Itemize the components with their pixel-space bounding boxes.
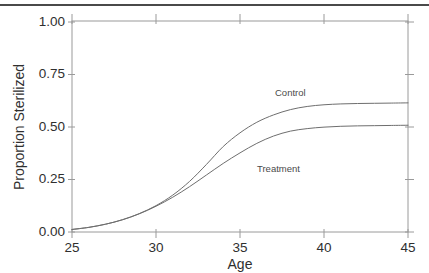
x-tick-label: 45 — [400, 240, 415, 255]
x-tick-label: 40 — [316, 240, 331, 255]
x-tick-label: 35 — [232, 240, 247, 255]
x-tick-label: 25 — [64, 240, 79, 255]
y-tick-label: 0.75 — [39, 66, 65, 81]
y-tick-label: 0.25 — [39, 171, 65, 186]
series-annotation-treatment: Treatment — [257, 163, 300, 174]
x-tick-marks-top — [72, 14, 408, 24]
y-tick-marks-right — [405, 22, 414, 232]
y-axis-title: Proportion Sterilized — [11, 64, 27, 190]
figure-container: Proportion Sterilized 0.00 0.25 0.50 0.7… — [0, 0, 429, 273]
y-tick-labels: 0.00 0.25 0.50 0.75 1.00 — [39, 14, 65, 239]
series-line-treatment — [72, 125, 408, 229]
y-tick-label: 1.00 — [39, 14, 65, 29]
x-tick-marks — [72, 229, 408, 238]
series-annotation-control: Control — [275, 87, 306, 98]
x-tick-label: 30 — [148, 240, 163, 255]
x-axis-title: Age — [228, 256, 253, 272]
y-tick-label: 0.00 — [39, 224, 65, 239]
chart-canvas: Proportion Sterilized 0.00 0.25 0.50 0.7… — [0, 0, 429, 273]
plot-frame — [72, 21, 408, 232]
y-tick-label: 0.50 — [39, 119, 65, 134]
x-tick-labels: 25 30 35 40 45 — [64, 240, 415, 255]
series-line-control — [72, 103, 408, 230]
